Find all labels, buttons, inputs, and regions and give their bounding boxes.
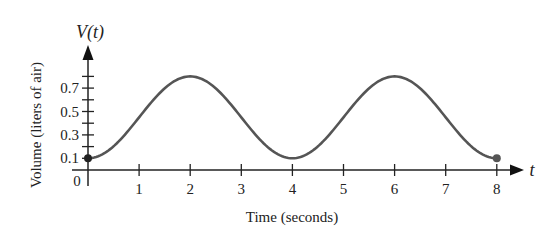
origin-label: 0	[73, 173, 81, 189]
y-tick-label: 0.1	[60, 150, 79, 166]
x-tick-label: 6	[391, 181, 399, 197]
y-tick-label: 0.5	[60, 104, 79, 120]
x-tick-label: 3	[238, 181, 246, 197]
y-axis-variable: V(t)	[76, 22, 104, 43]
y-tick-label: 0.3	[60, 127, 79, 143]
endpoint-dot	[84, 154, 92, 162]
y-axis-arrow-icon	[83, 45, 94, 60]
volume-chart: 12345678 0.10.30.50.7 0 t V(t) Time (sec…	[0, 0, 548, 239]
y-ticks: 0.10.30.50.7	[60, 76, 94, 166]
volume-curve	[88, 76, 497, 158]
endpoint-dot	[493, 154, 501, 162]
x-tick-label: 7	[442, 181, 450, 197]
x-axis-variable: t	[529, 160, 535, 180]
x-tick-label: 1	[135, 181, 143, 197]
x-tick-label: 4	[289, 181, 297, 197]
x-tick-label: 2	[186, 181, 194, 197]
x-axis-title: Time (seconds)	[246, 209, 338, 226]
y-axis-title: Volume (liters of air)	[28, 62, 45, 188]
x-ticks: 12345678	[135, 164, 500, 197]
y-tick-label: 0.7	[60, 80, 79, 96]
x-tick-label: 8	[493, 181, 501, 197]
x-axis-arrow-icon	[510, 165, 524, 176]
x-tick-label: 5	[340, 181, 348, 197]
